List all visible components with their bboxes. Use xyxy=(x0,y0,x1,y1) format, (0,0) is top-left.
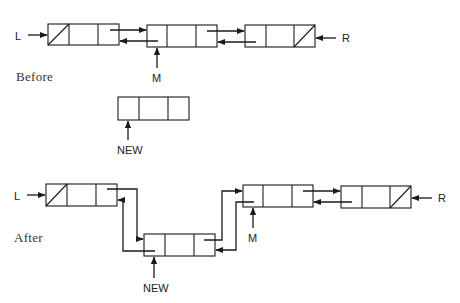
label-l-after: L xyxy=(14,190,20,202)
next-link xyxy=(107,189,143,239)
label-new-after: NEW xyxy=(143,282,169,294)
node-m-before xyxy=(147,25,217,47)
after-section: L xyxy=(14,184,446,294)
node-left-before xyxy=(48,24,119,45)
new-node-section: NEW xyxy=(117,97,189,156)
node-m-after xyxy=(243,185,313,207)
caption-before: Before xyxy=(16,69,53,84)
label-r-after: R xyxy=(438,192,446,204)
node-new-after xyxy=(144,234,215,256)
label-r-before: R xyxy=(342,32,350,44)
null-slash-icon xyxy=(294,25,315,47)
caption-after: After xyxy=(14,230,43,245)
before-section: L R M xyxy=(15,24,350,84)
node-new-standalone xyxy=(118,97,189,120)
node-left-after xyxy=(46,184,117,206)
label-m-before: M xyxy=(152,72,161,84)
label-m-after: M xyxy=(248,232,257,244)
linked-list-diagram: L R M xyxy=(0,0,460,303)
null-slash-icon xyxy=(48,24,69,45)
label-l-before: L xyxy=(15,30,21,42)
null-slash-icon xyxy=(46,184,67,206)
node-right-before xyxy=(245,25,315,47)
node-right-after xyxy=(341,186,411,208)
null-slash-icon xyxy=(390,186,411,208)
label-new-standalone: NEW xyxy=(117,144,143,156)
